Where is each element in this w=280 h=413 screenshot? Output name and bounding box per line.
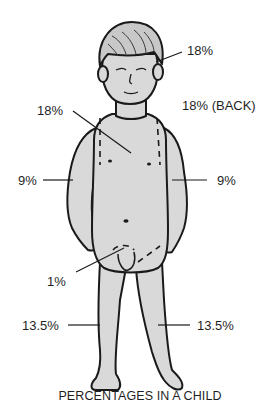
back-percentage-label: 18% (BACK) — [182, 99, 256, 112]
left-nipple — [108, 159, 112, 162]
left-ear-shape — [98, 66, 108, 82]
rule-of-nines-diagram: 18% 18% (BACK) 18% 9% 9% 1% 13.5% 13.5% … — [0, 0, 280, 413]
left-leg-percentage-label: 13.5% — [22, 319, 59, 332]
right-ear-shape — [153, 64, 163, 80]
right-arm-percentage-label: 9% — [217, 174, 236, 187]
child-body-illustration — [0, 0, 280, 413]
anterior-trunk-percentage-label: 18% — [37, 104, 63, 117]
left-arm-percentage-label: 9% — [18, 174, 37, 187]
left-leg-shape — [92, 262, 127, 390]
right-nipple — [147, 162, 151, 165]
perineum-percentage-label: 1% — [47, 275, 66, 288]
right-leg-shape — [136, 262, 182, 390]
right-leg-percentage-label: 13.5% — [197, 319, 234, 332]
diagram-caption: PERCENTAGES IN A CHILD — [0, 389, 280, 403]
head-percentage-label: 18% — [187, 44, 213, 57]
navel — [123, 219, 128, 223]
